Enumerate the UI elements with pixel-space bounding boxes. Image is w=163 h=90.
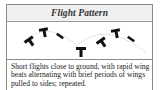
- flight-description: Short flights close to ground, with rapi…: [7, 60, 152, 88]
- flight-pattern-card: Flight Pattern: [6, 4, 153, 90]
- card-header: Flight Pattern: [7, 5, 152, 22]
- flight-path-illustration: [7, 22, 152, 60]
- card-title: Flight Pattern: [51, 8, 108, 18]
- undulating-flight-path-icon: [7, 22, 154, 59]
